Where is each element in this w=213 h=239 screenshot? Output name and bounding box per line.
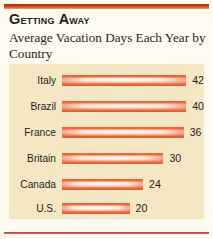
bar-track: 40 [62, 95, 204, 117]
bar-fill [62, 203, 130, 214]
bar-row: U.S. 20 [9, 197, 204, 219]
bar-track: 24 [62, 173, 204, 195]
bar-fill [62, 127, 184, 138]
bar-fill [62, 75, 186, 86]
bar-category-label: Brazil [9, 101, 62, 112]
bar-value-label: 42 [192, 74, 204, 86]
page-title: Getting Away [9, 12, 90, 27]
bar-value-label: 20 [136, 202, 148, 214]
chart-panel: Italy 42 Brazil 40 France 36 [9, 64, 204, 219]
infographic-card: Getting Away Average Vacation Days Each … [0, 0, 213, 239]
bar-row: Italy 42 [9, 69, 204, 91]
bar-value-label: 36 [190, 126, 202, 138]
top-divider-rule [4, 4, 209, 9]
title-word-away: way [69, 12, 89, 27]
bar-category-label: Canada [9, 179, 62, 190]
bar-track: 30 [62, 147, 204, 169]
bar-track: 36 [62, 121, 204, 143]
bar-category-label: Britain [9, 153, 62, 164]
bar-category-label: Italy [9, 75, 62, 86]
bar-value-label: 40 [192, 100, 204, 112]
bar-fill [62, 153, 163, 164]
bar-row: France 36 [9, 121, 204, 143]
title-initial-a: A [59, 11, 70, 27]
title-initial-g: G [9, 11, 20, 27]
bar-fill [62, 101, 186, 112]
bar-track: 42 [62, 69, 204, 91]
bar-value-label: 24 [149, 178, 161, 190]
bar-row: Canada 24 [9, 173, 204, 195]
bar-track: 20 [62, 197, 204, 219]
bar-fill [62, 179, 143, 190]
bar-row: Brazil 40 [9, 95, 204, 117]
bar-rows: Italy 42 Brazil 40 France 36 [9, 64, 204, 219]
bar-category-label: France [9, 127, 62, 138]
title-word-getting: etting [20, 12, 58, 27]
bar-category-label: U.S. [9, 203, 62, 214]
bottom-divider-rule [4, 232, 209, 234]
bar-row: Britain 30 [9, 147, 204, 169]
bar-value-label: 30 [169, 152, 181, 164]
page-subtitle: Average Vacation Days Each Year by Count… [9, 30, 207, 61]
